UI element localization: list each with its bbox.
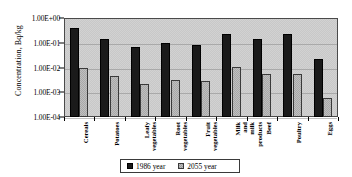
legend-swatch-2055-icon	[178, 163, 184, 169]
x-tick-mark	[94, 117, 95, 121]
x-tick-mark	[125, 117, 126, 121]
bar	[323, 98, 332, 117]
x-tick-mark	[155, 117, 156, 121]
y-tick-label: 1.00E-03	[34, 88, 61, 97]
bar	[314, 59, 323, 117]
legend-swatch-1986-icon	[127, 163, 133, 169]
y-tick-label: 1.00E-01	[34, 38, 61, 47]
bar-chart: Concentration, Bq/kg 1.00E+001.00E-011.0…	[0, 0, 352, 177]
x-category-label: Potatoes	[113, 122, 120, 156]
x-category-label: Beef	[265, 122, 272, 156]
legend-item-2055: 2055 year	[178, 162, 216, 171]
x-tick-mark	[216, 117, 217, 121]
legend-label-1986: 1986 year	[136, 162, 165, 171]
x-category-label: Eggs	[326, 122, 333, 156]
x-category-label: Cereals	[82, 122, 89, 156]
x-category-label: Root vegetables	[174, 122, 188, 156]
y-tick-label: 1.00E-02	[34, 63, 61, 72]
legend-item-1986: 1986 year	[127, 162, 165, 171]
x-tick-mark	[338, 117, 339, 121]
x-tick-mark	[308, 117, 309, 121]
x-category-label: Milk and milk products	[234, 122, 263, 156]
y-tick-label: 1.00E-04	[34, 113, 61, 122]
x-tick-mark	[64, 117, 65, 121]
x-category-label: Leafy vegetables	[143, 122, 157, 156]
y-axis-title: Concentration, Bq/kg	[14, 6, 23, 116]
x-tick-mark	[247, 117, 248, 121]
x-category-label: Poultry	[295, 122, 302, 156]
bar-series-group	[64, 18, 338, 117]
y-tick-label: 1.00E+00	[32, 14, 60, 23]
bar-group	[64, 18, 338, 117]
legend-label-2055: 2055 year	[187, 162, 216, 171]
x-tick-mark	[186, 117, 187, 121]
x-category-label: Fruit vegetables	[204, 122, 218, 156]
legend: 1986 year 2055 year	[120, 159, 240, 173]
gridline	[65, 118, 337, 119]
x-tick-mark	[277, 117, 278, 121]
x-axis-category-labels: CerealsPotatoesLeafy vegetablesRoot vege…	[64, 122, 338, 156]
